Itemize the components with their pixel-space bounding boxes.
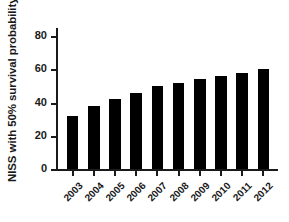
y-axis-tick: 80 bbox=[51, 36, 56, 38]
x-axis-tick bbox=[93, 171, 95, 176]
y-axis-title-container: NISS with 50% survival probability bbox=[0, 0, 24, 222]
y-axis-tick: 60 bbox=[51, 69, 56, 71]
y-axis-tick-label: 40 bbox=[35, 96, 47, 108]
bar bbox=[173, 83, 185, 169]
y-axis-tick: 0 bbox=[51, 169, 56, 171]
x-axis-tick-label: 2009 bbox=[185, 180, 211, 206]
y-axis-tick: 20 bbox=[51, 136, 56, 138]
bar bbox=[194, 79, 206, 169]
x-axis-tick bbox=[241, 171, 243, 176]
bar bbox=[130, 93, 142, 169]
bar bbox=[258, 69, 270, 169]
x-axis-tick-label: 2003 bbox=[58, 180, 84, 206]
y-axis-line bbox=[56, 28, 58, 171]
y-axis-tick-label: 60 bbox=[35, 62, 47, 74]
y-axis-tick-label: 20 bbox=[35, 129, 47, 141]
x-axis-tick-label: 2005 bbox=[101, 180, 127, 206]
bar bbox=[109, 99, 121, 169]
y-axis-tick: 40 bbox=[51, 103, 56, 105]
x-axis-tick bbox=[114, 171, 116, 176]
y-axis-tick-label: 80 bbox=[35, 29, 47, 41]
bar bbox=[215, 76, 227, 169]
x-axis-tick-label: 2004 bbox=[79, 180, 105, 206]
x-axis-tick-label: 2006 bbox=[122, 180, 148, 206]
x-axis-tick bbox=[220, 171, 222, 176]
x-axis-tick bbox=[135, 171, 137, 176]
x-axis-line bbox=[56, 169, 278, 171]
bar-chart-figure: NISS with 50% survival probability 02040… bbox=[0, 0, 289, 222]
x-axis-tick-label: 2010 bbox=[207, 180, 233, 206]
x-axis-tick-label: 2008 bbox=[164, 180, 190, 206]
x-axis-tick bbox=[262, 171, 264, 176]
x-axis-tick bbox=[72, 171, 74, 176]
y-axis-title: NISS with 50% survival probability bbox=[6, 6, 18, 182]
bar bbox=[88, 106, 100, 169]
x-axis-tick bbox=[199, 171, 201, 176]
y-axis-tick-label: 0 bbox=[41, 162, 47, 174]
x-axis-tick bbox=[156, 171, 158, 176]
bar bbox=[152, 86, 164, 169]
x-axis-tick-label: 2012 bbox=[249, 180, 275, 206]
x-axis-tick bbox=[178, 171, 180, 176]
bar bbox=[67, 116, 79, 169]
plot-area: 020406080 200320042005200620072008200920… bbox=[56, 28, 278, 171]
bar bbox=[236, 73, 248, 169]
x-axis-tick-label: 2007 bbox=[143, 180, 169, 206]
x-axis-tick-label: 2011 bbox=[228, 180, 254, 206]
